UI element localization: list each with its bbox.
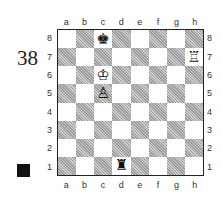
rank-label: 4 <box>47 103 52 121</box>
rank-label: 6 <box>47 66 52 84</box>
square-d2 <box>112 139 130 157</box>
rank-labels-right: 8 7 6 5 4 3 2 1 <box>207 29 212 176</box>
square-f2 <box>149 139 167 157</box>
square-d8 <box>112 30 130 48</box>
square-e6 <box>131 66 149 84</box>
square-b8 <box>76 30 94 48</box>
square-h2 <box>185 139 203 157</box>
square-g8 <box>167 30 185 48</box>
file-label: d <box>112 17 130 27</box>
square-b6 <box>76 66 94 84</box>
square-h3 <box>185 121 203 139</box>
square-d1: ♜ <box>112 157 130 175</box>
file-label: b <box>75 180 93 190</box>
file-label: f <box>149 180 167 190</box>
rank-label: 1 <box>207 158 212 176</box>
file-labels-top: a b c d e f g h <box>57 17 204 27</box>
square-c1 <box>94 157 112 175</box>
rank-label: 8 <box>47 29 52 47</box>
rank-label: 1 <box>47 158 52 176</box>
file-label: e <box>131 180 149 190</box>
file-label: b <box>75 17 93 27</box>
rank-label: 8 <box>207 29 212 47</box>
square-g2 <box>167 139 185 157</box>
square-b2 <box>76 139 94 157</box>
file-label: d <box>112 180 130 190</box>
rank-label: 5 <box>47 84 52 102</box>
square-g1 <box>167 157 185 175</box>
square-c6: ♔ <box>94 66 112 84</box>
rank-label: 5 <box>207 84 212 102</box>
square-f3 <box>149 121 167 139</box>
black-rook-icon: ♜ <box>115 158 128 173</box>
file-label: c <box>94 17 112 27</box>
square-a6 <box>58 66 76 84</box>
white-king-icon: ♔ <box>97 68 110 83</box>
square-c5: ♙ <box>94 84 112 102</box>
square-h8 <box>185 30 203 48</box>
square-e1 <box>131 157 149 175</box>
square-f5 <box>149 84 167 102</box>
rank-label: 6 <box>207 66 212 84</box>
square-g5 <box>167 84 185 102</box>
square-a1 <box>58 157 76 175</box>
rank-label: 3 <box>47 121 52 139</box>
square-a7 <box>58 48 76 66</box>
square-f4 <box>149 103 167 121</box>
square-d3 <box>112 121 130 139</box>
square-d7 <box>112 48 130 66</box>
square-b3 <box>76 121 94 139</box>
square-c8: ♚ <box>94 30 112 48</box>
white-pawn-icon: ♙ <box>97 86 110 101</box>
square-b7 <box>76 48 94 66</box>
file-labels-bottom: a b c d e f g h <box>57 180 204 190</box>
square-e8 <box>131 30 149 48</box>
square-h1 <box>185 157 203 175</box>
square-c2 <box>94 139 112 157</box>
black-king-icon: ♚ <box>97 32 110 47</box>
square-g3 <box>167 121 185 139</box>
square-g4 <box>167 103 185 121</box>
square-f1 <box>149 157 167 175</box>
square-a5 <box>58 84 76 102</box>
square-c3 <box>94 121 112 139</box>
square-a4 <box>58 103 76 121</box>
square-b4 <box>76 103 94 121</box>
square-c7 <box>94 48 112 66</box>
rank-label: 2 <box>47 139 52 157</box>
white-rook-icon: ♖ <box>187 50 200 65</box>
square-h5 <box>185 84 203 102</box>
file-label: a <box>57 17 75 27</box>
square-d6 <box>112 66 130 84</box>
square-c4 <box>94 103 112 121</box>
file-label: g <box>167 17 185 27</box>
black-to-move-indicator <box>17 164 30 177</box>
square-a2 <box>58 139 76 157</box>
file-label: h <box>186 180 204 190</box>
square-g6 <box>167 66 185 84</box>
square-f7 <box>149 48 167 66</box>
square-h7: ♖ <box>185 48 203 66</box>
square-a3 <box>58 121 76 139</box>
diagram-number: 38 <box>17 46 38 71</box>
square-g7 <box>167 48 185 66</box>
rank-label: 3 <box>207 121 212 139</box>
rank-label: 4 <box>207 103 212 121</box>
square-b5 <box>76 84 94 102</box>
square-d5 <box>112 84 130 102</box>
square-h4 <box>185 103 203 121</box>
file-label: c <box>94 180 112 190</box>
square-e7 <box>131 48 149 66</box>
rank-labels-left: 8 7 6 5 4 3 2 1 <box>47 29 52 176</box>
rank-label: 2 <box>207 139 212 157</box>
rank-label: 7 <box>47 47 52 65</box>
square-f8 <box>149 30 167 48</box>
square-e3 <box>131 121 149 139</box>
square-e4 <box>131 103 149 121</box>
square-a8 <box>58 30 76 48</box>
rank-label: 7 <box>207 47 212 65</box>
file-label: e <box>131 17 149 27</box>
square-b1 <box>76 157 94 175</box>
square-h6 <box>185 66 203 84</box>
file-label: a <box>57 180 75 190</box>
